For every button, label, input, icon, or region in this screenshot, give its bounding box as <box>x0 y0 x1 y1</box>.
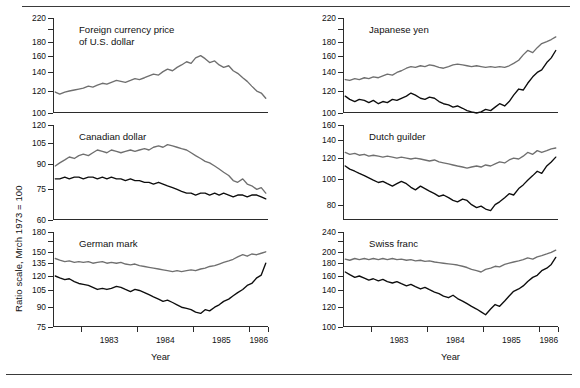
y-tick-label: 120 <box>322 302 336 312</box>
y-tick-label: 120 <box>32 86 46 96</box>
x-tick <box>371 327 372 332</box>
series-line-nominal <box>55 252 266 272</box>
y-tick-label: 140 <box>322 67 336 77</box>
y-tick-label: 220 <box>32 13 46 23</box>
y-tick <box>48 113 53 114</box>
panel-dutch-guilder: 80100120140160Dutch guilder <box>343 125 558 220</box>
x-tick-label: 1984 <box>446 335 465 345</box>
series-line-real <box>345 157 556 210</box>
x-tick <box>193 327 194 332</box>
x-axis-title: Year <box>151 351 170 362</box>
y-tick-label: 100 <box>32 108 46 118</box>
y-tick-label: 220 <box>322 13 336 23</box>
x-axis-title: Year <box>441 351 460 362</box>
y-tick-label: 140 <box>32 67 46 77</box>
x-tick <box>427 327 428 332</box>
series-line-real <box>345 257 556 314</box>
y-tick-label: 160 <box>32 51 46 61</box>
y-tick-label: 90 <box>37 302 46 312</box>
x-tick-label: 1986 <box>249 335 268 345</box>
y-tick-label: 180 <box>322 37 336 47</box>
y-tick-label: 100 <box>322 108 336 118</box>
top-rule <box>22 6 570 7</box>
y-tick-label: 180 <box>322 258 336 268</box>
y-tick-label: 100 <box>322 174 336 184</box>
panel-german-mark: 75901051201351501801983198419851986YearG… <box>53 232 268 327</box>
y-tick-label: 160 <box>322 51 336 61</box>
panel-foreign-currency-price-of-u-s-dollar: 100120140160180220Foreign currency price… <box>53 18 268 113</box>
series-line-nominal <box>345 148 556 168</box>
series-line-nominal <box>55 145 266 194</box>
series-line-nominal <box>345 250 556 272</box>
y-tick-label: 60 <box>37 215 46 225</box>
y-tick <box>338 327 343 328</box>
x-tick <box>539 327 540 332</box>
y-tick-label: 75 <box>37 322 46 332</box>
x-tick <box>268 327 269 332</box>
y-tick-label: 200 <box>322 247 336 257</box>
y-tick-label: 75 <box>37 184 46 194</box>
y-tick-label: 160 <box>322 271 336 281</box>
y-axis-title-left: Ratio scale, Mrch 1973 = 100 <box>13 112 24 312</box>
series-line-nominal <box>345 37 556 81</box>
panel-canadian-dollar: 607590105120Canadian dollar <box>53 125 268 220</box>
x-tick-label: 1984 <box>156 335 175 345</box>
y-tick-label: 120 <box>32 120 46 130</box>
plot-lines <box>343 125 558 220</box>
series-line-real <box>345 50 556 113</box>
bottom-rule <box>6 374 572 375</box>
x-tick-label: 1983 <box>390 335 409 345</box>
y-tick-label: 100 <box>322 322 336 332</box>
x-tick <box>483 327 484 332</box>
y-tick-label: 150 <box>32 247 46 257</box>
y-tick-label: 140 <box>322 135 336 145</box>
y-tick <box>338 113 343 114</box>
right-column: Ratio scale, March 1973 = 100 1001201401… <box>290 12 580 372</box>
y-tick <box>48 327 53 328</box>
x-tick-label: 1985 <box>212 335 231 345</box>
y-tick-label: 140 <box>322 285 336 295</box>
panel-swiss-franc: 1001201401601802002401983198419851986Yea… <box>343 232 558 327</box>
x-tick <box>81 327 82 332</box>
x-tick-label: 1986 <box>539 335 558 345</box>
y-tick-label: 180 <box>32 227 46 237</box>
y-tick-label: 180 <box>32 37 46 47</box>
figure-root: Ratio scale, Mrch 1973 = 100 10012014016… <box>0 0 580 388</box>
y-tick-label: 105 <box>32 138 46 148</box>
y-tick-label: 135 <box>32 258 46 268</box>
x-tick <box>558 327 559 332</box>
x-tick <box>137 327 138 332</box>
y-tick-label: 90 <box>37 159 46 169</box>
y-tick-label: 120 <box>32 271 46 281</box>
y-tick-label: 160 <box>322 120 336 130</box>
plot-lines <box>53 232 268 327</box>
y-tick-label: 80 <box>327 200 336 210</box>
y-tick-label: 120 <box>322 86 336 96</box>
x-tick <box>249 327 250 332</box>
plot-lines <box>53 125 268 220</box>
y-tick-label: 240 <box>322 227 336 237</box>
x-tick-label: 1985 <box>502 335 521 345</box>
y-tick <box>48 220 53 221</box>
plot-lines <box>53 18 268 113</box>
y-tick-label: 120 <box>322 153 336 163</box>
plot-lines <box>343 18 558 113</box>
plot-lines <box>343 232 558 327</box>
left-column: Ratio scale, Mrch 1973 = 100 10012014016… <box>0 12 290 372</box>
series-line-real <box>55 263 266 313</box>
panel-japanese-yen: 100120140160180220Japanese yen <box>343 18 558 113</box>
y-tick-label: 105 <box>32 285 46 295</box>
series-line-nominal <box>55 56 266 99</box>
x-tick-label: 1983 <box>100 335 119 345</box>
